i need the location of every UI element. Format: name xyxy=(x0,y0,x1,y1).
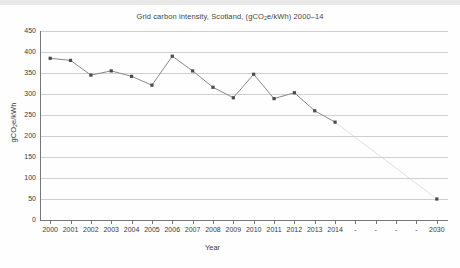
x-axis-tick xyxy=(132,220,133,224)
y-axis-tick-label: 250 xyxy=(2,111,36,118)
y-axis-tick-label: 450 xyxy=(2,27,36,34)
x-axis-tick-label: - xyxy=(375,226,377,233)
x-axis-tick-label: 2009 xyxy=(226,226,242,233)
x-axis-tick xyxy=(50,220,51,224)
y-axis-title-post: e/kWh xyxy=(9,103,18,124)
x-axis-tick-label: 2014 xyxy=(327,226,343,233)
chart-title-post: e/kWh) 2000–14 xyxy=(267,12,323,21)
x-axis-tick xyxy=(274,220,275,224)
x-axis-ticks xyxy=(40,220,447,224)
y-axis-title: gCO2e/kWh xyxy=(9,88,18,158)
y-axis-tick-label: 100 xyxy=(2,174,36,181)
chart-title-pre: Grid carbon intensity, Scotland, (gCO xyxy=(137,12,264,21)
x-axis-tick-label: 2002 xyxy=(83,226,99,233)
data-point-marker xyxy=(49,57,52,60)
chart-figure: Grid carbon intensity, Scotland, (gCO2e/… xyxy=(0,0,460,268)
y-axis-tick-label: 150 xyxy=(2,153,36,160)
data-point-marker xyxy=(333,121,336,124)
data-point-marker xyxy=(89,74,92,77)
x-axis-tick-label: 2012 xyxy=(287,226,303,233)
x-axis-tick-label: - xyxy=(415,226,417,233)
x-axis-title: Year xyxy=(0,243,425,252)
y-axis-tick-label: 300 xyxy=(2,90,36,97)
x-axis-tick-label: 2030 xyxy=(429,226,445,233)
data-point-marker xyxy=(191,69,194,72)
series-line xyxy=(50,56,335,122)
x-axis-tick xyxy=(315,220,316,224)
x-axis-tick-label: 2006 xyxy=(164,226,180,233)
data-point-marker xyxy=(272,97,275,100)
data-point-marker xyxy=(252,73,255,76)
data-point-marker xyxy=(171,55,174,58)
series-line xyxy=(335,122,437,199)
data-point-marker xyxy=(232,96,235,99)
x-axis-tick xyxy=(376,220,377,224)
top-border-band xyxy=(0,0,460,5)
x-axis-tick xyxy=(233,220,234,224)
x-axis-tick-label: - xyxy=(395,226,397,233)
y-axis-tick-label: 400 xyxy=(2,48,36,55)
x-axis-tick xyxy=(71,220,72,224)
y-axis-tick-label: 50 xyxy=(2,195,36,202)
x-axis-tick-label: 2004 xyxy=(124,226,140,233)
x-axis-tick-label: 2001 xyxy=(63,226,79,233)
chart-title: Grid carbon intensity, Scotland, (gCO2e/… xyxy=(0,12,460,21)
x-axis-tick-label: 2011 xyxy=(266,226,281,233)
x-axis-tick-label: 2008 xyxy=(205,226,221,233)
x-axis-tick-label: 2010 xyxy=(246,226,262,233)
data-point-marker xyxy=(313,109,316,112)
data-point-marker xyxy=(69,59,72,62)
x-axis-tick-label: - xyxy=(354,226,356,233)
x-axis-tick xyxy=(213,220,214,224)
data-point-marker xyxy=(211,86,214,89)
y-axis-title-pre: gCO xyxy=(9,127,18,142)
x-axis-tick xyxy=(396,220,397,224)
x-axis-tick-label: 2000 xyxy=(42,226,58,233)
x-axis-tick xyxy=(254,220,255,224)
x-axis-tick-label: 2003 xyxy=(103,226,119,233)
x-axis-tick xyxy=(416,220,417,224)
y-axis-title-subscript: 2 xyxy=(12,124,18,127)
x-axis-tick xyxy=(355,220,356,224)
data-point-marker xyxy=(130,75,133,78)
x-axis-tick-label: 2007 xyxy=(185,226,201,233)
y-axis-tick-label: 0 xyxy=(2,216,36,223)
data-series-layer xyxy=(40,31,447,220)
x-axis-tick-label: 2013 xyxy=(307,226,323,233)
x-axis-tick xyxy=(193,220,194,224)
x-axis-tick xyxy=(111,220,112,224)
data-point-marker xyxy=(110,69,113,72)
y-axis-tick-label: 350 xyxy=(2,69,36,76)
data-point-marker xyxy=(435,197,438,200)
x-axis-tick-labels: 2000200120022003200420052006200720082009… xyxy=(0,226,460,238)
x-axis-tick xyxy=(172,220,173,224)
data-point-marker xyxy=(150,84,153,87)
y-axis-tick-label: 200 xyxy=(2,132,36,139)
x-axis-tick xyxy=(437,220,438,224)
data-point-marker xyxy=(293,91,296,94)
x-axis-tick xyxy=(335,220,336,224)
x-axis-tick-label: 2005 xyxy=(144,226,160,233)
x-axis-tick xyxy=(152,220,153,224)
x-axis-tick xyxy=(91,220,92,224)
x-axis-tick xyxy=(294,220,295,224)
